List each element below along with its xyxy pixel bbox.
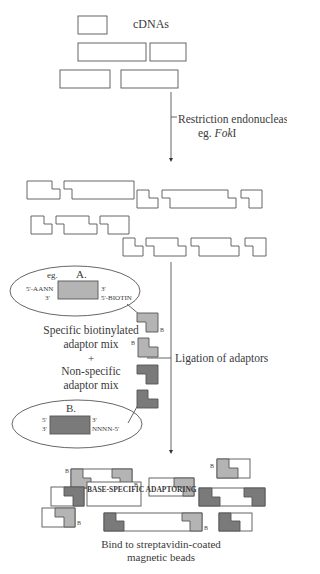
bind-label-2: magnetic beads bbox=[96, 552, 226, 563]
biotin-marker: B bbox=[210, 463, 214, 469]
nonspecific-mix-label-1: Non-specific bbox=[36, 366, 146, 378]
cdna-fragment bbox=[78, 43, 146, 61]
restriction-label: Restriction endonuclease bbox=[178, 114, 287, 126]
biotin-marker: B bbox=[160, 327, 164, 333]
cdnas-label: cDNAs bbox=[133, 18, 169, 30]
adaptor-b-box bbox=[50, 416, 90, 434]
adaptor-a-right-top: 3' bbox=[101, 286, 106, 293]
ligation-label: Ligation of adaptors bbox=[175, 353, 268, 365]
fragment bbox=[56, 216, 97, 234]
fragment bbox=[123, 238, 143, 256]
adaptor-b-title: B. bbox=[66, 403, 76, 414]
biotin-marker: B bbox=[204, 525, 208, 531]
specific-mix-label-1: Specific biotinylated bbox=[36, 325, 146, 337]
adaptor-a-right-bottom: 5'-BIOTIN bbox=[101, 295, 132, 302]
cdna-fragment bbox=[60, 70, 110, 88]
biotin-marker: B bbox=[65, 468, 69, 474]
arrowhead-icon bbox=[169, 158, 173, 162]
base-specific-label: BASE-SPECIFIC ADAPTORING bbox=[87, 485, 141, 494]
adaptor-b-left-bottom: 3' bbox=[42, 426, 47, 433]
adaptor-a-left-bottom: 3' bbox=[45, 295, 50, 302]
adaptor-b-right-bottom: NNNN-5' bbox=[92, 426, 119, 433]
nonspecific-adaptor bbox=[137, 390, 158, 408]
cdna-fragment bbox=[121, 70, 178, 88]
arrowhead-icon bbox=[169, 450, 173, 454]
adaptor-a-box bbox=[58, 281, 98, 299]
fragment bbox=[245, 238, 266, 256]
adaptor-b-left-top: 5' bbox=[42, 417, 47, 424]
specific-mix-label-2: adaptor mix bbox=[36, 339, 146, 351]
restriction-example-label: eg. FokI bbox=[198, 128, 236, 140]
biotin-marker: B bbox=[134, 482, 138, 488]
ligated-products bbox=[42, 459, 265, 531]
adaptor-a-left-top: 5'-AANN bbox=[26, 286, 53, 293]
fragment bbox=[241, 190, 262, 208]
adaptor-a-title: A. bbox=[76, 269, 87, 280]
eg-prefix: eg. bbox=[198, 127, 215, 139]
fragment bbox=[100, 216, 129, 234]
fragment bbox=[191, 238, 239, 256]
fragment bbox=[64, 181, 134, 199]
fragment bbox=[137, 190, 158, 208]
enzyme-name: Fok bbox=[215, 127, 233, 139]
adaptor-b-right-top: 3' bbox=[92, 417, 97, 424]
fragment bbox=[27, 181, 60, 199]
plus-label: + bbox=[36, 353, 146, 364]
adaptor-a-eg: eg. bbox=[47, 271, 58, 280]
enzyme-suffix: I bbox=[233, 127, 237, 139]
cdna-fragment bbox=[78, 16, 107, 34]
bind-label-1: Bind to streptavidin-coated bbox=[96, 539, 226, 550]
fragment bbox=[146, 238, 186, 256]
biotin-marker: B bbox=[131, 340, 135, 346]
biotin-marker: B bbox=[77, 520, 81, 526]
nonspecific-mix-label-2: adaptor mix bbox=[36, 380, 146, 392]
cdna-fragment bbox=[150, 43, 186, 61]
fragment bbox=[31, 216, 52, 234]
digested-fragments bbox=[27, 181, 266, 256]
fragment bbox=[162, 190, 236, 208]
